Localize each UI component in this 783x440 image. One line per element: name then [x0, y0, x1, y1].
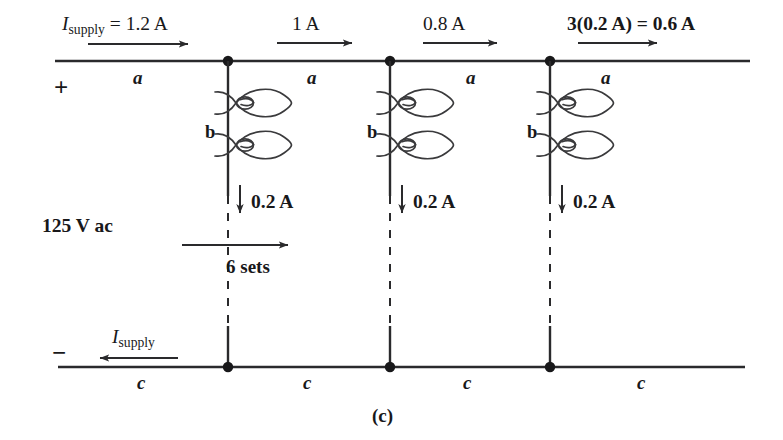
conductor-label-a-3: a: [466, 68, 476, 87]
top-rail-current-arrows: [88, 43, 657, 44]
source-voltage-label: 125 V ac: [42, 216, 113, 236]
figure-canvas: Isupply = 1.2 A 1 A 0.8 A 3(0.2 A) = 0.6…: [0, 0, 783, 440]
node-dot-bottom-3: [545, 362, 555, 372]
polarity-negative: −: [52, 340, 66, 365]
conductor-label-c-1: c: [137, 373, 145, 392]
branch-3: [537, 56, 614, 372]
neutral-label-b-2: b: [367, 123, 377, 142]
conductor-label-a-4: a: [601, 68, 611, 87]
conductor-label-a-2: a: [307, 68, 317, 87]
branch-current-label-3: 0.2 A: [573, 192, 615, 212]
branch-current-label-2: 0.2 A: [413, 192, 455, 212]
neutral-label-b-1: b: [205, 123, 215, 142]
circuit-diagram: [0, 0, 783, 440]
top-current-label-3: 0.8 A: [423, 14, 465, 34]
figure-caption: (c): [372, 406, 393, 425]
bottom-rail-wire: [58, 358, 745, 367]
return-current-label: Isupply: [112, 327, 155, 350]
polarity-positive: +: [54, 75, 68, 100]
branch-current-label-1: 0.2 A: [251, 192, 293, 212]
lamp-3a: [537, 89, 614, 116]
branch-2: [377, 56, 454, 372]
lamp-2b: [377, 131, 454, 158]
six-sets-label: 6 sets: [226, 257, 270, 276]
conductor-label-c-3: c: [463, 373, 471, 392]
lamp-1b: [215, 131, 292, 158]
top-current-label-1: Isupply = 1.2 A: [62, 14, 168, 37]
top-current-label-2: 1 A: [292, 14, 320, 34]
top-current-label-4: 3(0.2 A) = 0.6 A: [567, 14, 695, 34]
node-dot-bottom-1: [223, 362, 233, 372]
branch-1: [215, 56, 292, 372]
lamp-2a: [377, 89, 454, 116]
node-dot-bottom-2: [385, 362, 395, 372]
neutral-label-b-3: b: [527, 123, 537, 142]
conductor-label-c-4: c: [637, 373, 645, 392]
lamp-3b: [537, 131, 614, 158]
conductor-label-a-1: a: [133, 68, 143, 87]
conductor-label-c-2: c: [303, 373, 311, 392]
lamp-1a: [215, 89, 292, 116]
